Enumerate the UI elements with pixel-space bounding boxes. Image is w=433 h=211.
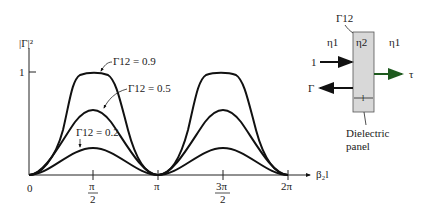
x-axis (29, 170, 310, 180)
dielectric-panel-diagram: Γ12 η1 η2 η1 1 Γ τ l Dielectric panel (308, 12, 414, 152)
x-tick-2pi: 2π (281, 180, 293, 192)
x-tick-3pi-half-den: 2 (220, 193, 226, 205)
x-axis-label: β₂l (316, 168, 329, 180)
caption-line2: panel (346, 140, 370, 152)
y-axis (29, 48, 36, 175)
label-gamma-0.5: Γ12 = 0.5 (128, 82, 171, 94)
incident-label: 1 (311, 56, 317, 68)
right-medium-label: η1 (389, 36, 400, 48)
y-axis-label: |Γ|² (19, 37, 34, 49)
caption-line1: Dielectric (346, 127, 389, 139)
x-tick-0: 0 (27, 182, 33, 194)
label-gamma-0.2: Γ12 = 0.2 (76, 126, 119, 138)
reflected-label: Γ (308, 82, 314, 94)
left-medium-label: η1 (327, 36, 338, 48)
transmitted-label: τ (409, 68, 414, 80)
y-tick-one: 1 (19, 66, 25, 78)
figure: |Γ|² 1 0 π 2 π 3π 2 2π β₂l Γ12 = 0.9 Γ12… (0, 0, 433, 211)
x-tick-pi-half-num: π (89, 180, 95, 192)
curve-gamma-0.5 (29, 110, 288, 175)
x-tick-pi: π (154, 180, 160, 192)
interface-label: Γ12 (336, 12, 353, 24)
x-tick-3pi-half-num: 3π (216, 180, 228, 192)
x-tick-pi-half-den: 2 (90, 193, 96, 205)
label-gamma-0.9: Γ12 = 0.9 (113, 55, 156, 67)
panel-medium-label: η2 (356, 36, 367, 48)
